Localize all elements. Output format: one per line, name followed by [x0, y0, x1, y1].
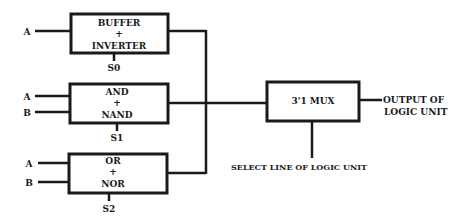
- block-label-line3: NAND: [101, 110, 132, 120]
- input-b-label: B: [25, 178, 33, 188]
- mux-block: 3'1 MUX OUTPUT OF LOGIC UNIT SELECT LINE…: [231, 82, 448, 172]
- output-label-line1: OUTPUT OF: [383, 95, 445, 105]
- mux-label: 3'1 MUX: [291, 96, 334, 106]
- or-nor-block: A B OR + NOR S2: [25, 154, 206, 214]
- block-label-line3: INVERTER: [92, 41, 147, 51]
- select-s0-label: S0: [108, 63, 121, 73]
- input-b-label: B: [23, 108, 31, 118]
- select-line-label: SELECT LINE OF LOGIC UNIT: [231, 162, 367, 172]
- input-a-label: A: [23, 27, 32, 37]
- block-label-plus: +: [109, 167, 117, 177]
- block-label-line1: BUFFER: [98, 18, 141, 28]
- block-label-line1: AND: [104, 87, 128, 97]
- input-a-label: A: [23, 92, 32, 102]
- buffer-inverter-block: A BUFFER + INVERTER S0: [23, 14, 206, 73]
- block-label-plus: +: [115, 29, 123, 39]
- block-label-line3: NOR: [101, 179, 125, 189]
- and-nand-block: A B AND + NAND S1: [23, 84, 206, 143]
- block-label-plus: +: [113, 98, 121, 108]
- output-label-line2: LOGIC UNIT: [384, 107, 448, 117]
- block-label-line1: OR: [105, 156, 121, 166]
- logic-unit-diagram: A BUFFER + INVERTER S0 A B AND + NAND S1…: [0, 0, 467, 224]
- input-a-label: A: [25, 159, 34, 169]
- select-s2-label: S2: [103, 204, 116, 214]
- select-s1-label: S1: [111, 133, 124, 143]
